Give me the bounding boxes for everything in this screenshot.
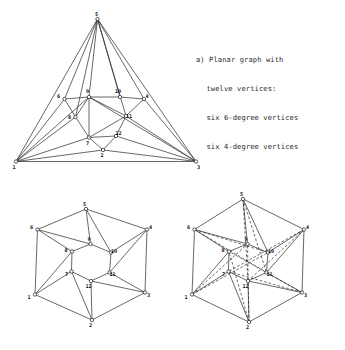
vertex-label-6: 6 [57, 93, 60, 99]
vertex-label-7: 7 [222, 271, 225, 277]
graph-edge-3-4 [302, 230, 304, 293]
graph-edge-3-4 [144, 99, 196, 162]
vertex-label-4: 4 [145, 93, 148, 99]
graph-edge-5-8 [76, 19, 98, 117]
vertex-label-2: 2 [246, 324, 249, 330]
graph-edge-6-9 [65, 97, 90, 99]
vertex-label-8: 8 [68, 114, 71, 120]
graph-edge-6-9 [195, 230, 248, 245]
graph-vertex-8 [70, 250, 73, 253]
graph-edge-10-4 [120, 97, 144, 99]
graph-edge-1-2 [35, 295, 92, 321]
graph-edge-1-2 [192, 295, 249, 323]
graph-vertex-8 [227, 250, 230, 253]
graph-edge-3-2 [103, 150, 196, 162]
vertex-label-9: 9 [87, 236, 90, 242]
graph-vertex-7 [70, 270, 73, 273]
vertex-label-4: 4 [306, 224, 309, 230]
graph-vertex-6 [63, 97, 66, 100]
vertex-label-12: 12 [115, 130, 121, 136]
graph-vertex-5 [241, 197, 244, 200]
vertex-label-8: 8 [221, 247, 224, 253]
vertex-label-11: 11 [266, 271, 272, 277]
graph-edge-6-1 [35, 230, 38, 295]
panel-hexagon-edges [35, 209, 147, 320]
graph-edge-3-12 [116, 136, 196, 162]
graph-vertex-7 [227, 270, 230, 273]
graph-edge-4-5 [86, 209, 147, 230]
graph-vertex-9 [87, 95, 90, 98]
graph-edge-2-12 [103, 136, 116, 150]
graph-edge-1-7 [16, 138, 89, 162]
graph-edge-dashed-4-12 [248, 230, 304, 282]
graph-edge-5-9 [89, 19, 98, 97]
graph-edge-2-7 [229, 272, 250, 323]
vertex-label-8: 8 [64, 247, 67, 253]
graph-edge-11-12 [91, 273, 110, 282]
vertex-label-12: 12 [85, 283, 91, 289]
vertex-label-7: 7 [86, 140, 89, 146]
graph-vertex-9 [89, 242, 92, 245]
graph-edge-7-8 [72, 252, 73, 272]
graph-edge-dashed-6-10 [195, 230, 269, 253]
graph-edge-3-12 [248, 281, 302, 293]
vertex-label-12: 12 [242, 283, 248, 289]
graph-vertex-9 [246, 242, 249, 245]
vertex-label-10: 10 [268, 248, 274, 254]
vertex-label-6: 6 [187, 224, 190, 230]
graph-edge-2-3 [92, 293, 145, 321]
graph-edge-5-10 [86, 209, 111, 253]
vertex-label-1: 1 [184, 294, 187, 300]
graph-edge-dashed-1-9 [192, 244, 248, 295]
graph-edge-3-12 [91, 281, 145, 293]
graph-edge-7-2 [89, 138, 103, 151]
graph-edge-3-9 [89, 97, 196, 162]
panel-hexagon-nodes: 564132910811712 [27, 201, 152, 329]
vertex-label-11: 11 [126, 113, 132, 119]
graph-edge-8-7 [76, 117, 90, 138]
graph-edge-5-4 [98, 19, 145, 99]
graph-vertex-5 [84, 207, 87, 210]
graph-vertex-1 [190, 293, 193, 296]
caption-line-3: six 6-degree vertices [196, 113, 298, 123]
vertex-label-3: 3 [147, 292, 150, 298]
graph-edge-5-6 [195, 199, 244, 230]
panel-hexagon-dashed-edges [192, 199, 304, 322]
graph-vertex-8 [74, 115, 77, 118]
vertex-label-7: 7 [65, 271, 68, 277]
graph-edge-10-11 [267, 253, 269, 273]
caption-line-1: a) Planar graph with [196, 55, 298, 65]
vertex-label-9: 9 [86, 88, 89, 94]
vertex-label-10: 10 [111, 248, 117, 254]
vertex-label-10: 10 [115, 88, 121, 94]
graph-edge-8-9 [72, 244, 91, 252]
graph-edge-2-7 [72, 272, 93, 321]
graph-edge-5-11 [98, 19, 127, 116]
vertex-label-5: 5 [83, 201, 86, 207]
vertex-label-1: 1 [12, 164, 15, 170]
graph-edge-2-3 [249, 293, 302, 323]
graph-edge-5-6 [65, 19, 98, 99]
vertex-label-1: 1 [27, 294, 30, 300]
graph-edge-9-11 [89, 97, 126, 116]
graph-edge-12-7 [72, 272, 92, 282]
graph-edge-6-9 [38, 230, 91, 245]
vertex-label-5: 5 [95, 11, 98, 17]
graph-edge-4-5 [243, 199, 304, 230]
graph-vertex-6 [36, 228, 39, 231]
vertex-label-9: 9 [244, 236, 247, 242]
vertex-label-3: 3 [304, 292, 307, 298]
graph-edge-3-11 [126, 116, 196, 162]
graph-vertex-6 [193, 228, 196, 231]
caption-line-4: six 4-degree vertices [196, 142, 298, 152]
vertex-label-11: 11 [109, 271, 115, 277]
graph-vertex-1 [33, 293, 36, 296]
graph-edge-9-10 [91, 244, 112, 253]
graph-edge-7-12 [89, 136, 116, 138]
caption-line-2: twelve vertices: [196, 84, 298, 94]
graph-edge-3-4 [145, 230, 147, 293]
vertex-label-2: 2 [100, 152, 103, 158]
graph-edge-5-6 [38, 209, 87, 230]
graph-edge-7-8 [229, 252, 230, 272]
graph-vertex-5 [96, 17, 99, 20]
